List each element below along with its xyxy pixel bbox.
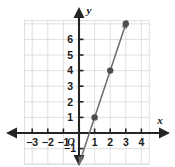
y-tick-label: 1: [67, 111, 73, 123]
x-tick-label: −2: [42, 136, 54, 148]
x-tick-label: 1: [92, 136, 98, 148]
y-tick-label: 6: [67, 33, 73, 45]
x-tick-label: 4: [138, 136, 144, 148]
x-tick-label: 2: [107, 136, 113, 148]
y-axis-label: y: [85, 4, 92, 16]
data-point: [107, 67, 113, 73]
x-axis-arrow-left: [6, 128, 17, 139]
x-axis-label: x: [156, 114, 163, 126]
coordinate-graph-figure: −3−2−11234−1123456Oxy: [0, 0, 175, 167]
x-tick-label: −3: [26, 136, 38, 148]
y-tick-label: 3: [67, 80, 73, 92]
y-tick-label: 2: [67, 96, 73, 108]
data-point: [91, 114, 97, 120]
y-tick-label: 4: [67, 64, 73, 76]
y-axis-arrow-up: [74, 7, 85, 18]
x-axis-arrow-right: [159, 128, 170, 139]
origin-label: O: [67, 135, 75, 147]
y-tick-label: 5: [67, 49, 73, 61]
data-point: [123, 21, 129, 27]
x-tick-label: 3: [123, 136, 129, 148]
graph-canvas: −3−2−11234−1123456Oxy: [0, 0, 175, 167]
